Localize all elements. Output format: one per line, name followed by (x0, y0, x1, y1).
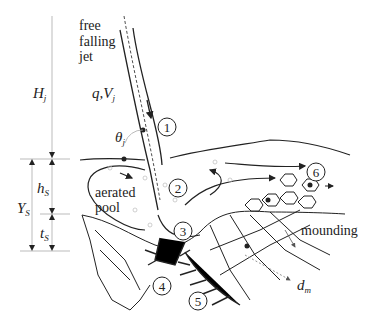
theta-arc (125, 130, 143, 143)
label-Ys: YS (17, 200, 30, 218)
label-qVj: q,Vj (92, 85, 115, 103)
label-hs: hS (37, 180, 50, 198)
block-dot (308, 183, 313, 188)
mound-blocks (245, 174, 319, 211)
dm-arrow (245, 255, 290, 280)
marker-1: 1 (164, 120, 171, 135)
surface-point (122, 157, 127, 162)
label-falling: falling (79, 34, 116, 49)
label-Hj: Hj (32, 85, 47, 103)
block-dot (266, 198, 271, 203)
marker-5: 5 (195, 294, 202, 309)
free-falling-jet (120, 16, 162, 210)
marker-2: 2 (175, 181, 182, 196)
label-theta: θj (115, 129, 125, 147)
mounding-arrow (285, 230, 295, 247)
marker-6: 6 (313, 165, 320, 180)
label-pool: pool (95, 200, 120, 215)
label-dm: dm (297, 277, 312, 295)
plunge-pool-diagram: 1 2 3 4 5 6 free falling jet aerated poo… (0, 0, 376, 332)
label-free: free (79, 18, 101, 33)
label-ts: tS (40, 225, 49, 243)
marker-4: 4 (159, 279, 166, 294)
label-mounding: mounding (301, 223, 358, 238)
marker-3: 3 (180, 224, 187, 239)
block-dot (245, 244, 250, 249)
label-aerated: aerated (95, 185, 135, 200)
label-jet: jet (78, 49, 93, 64)
